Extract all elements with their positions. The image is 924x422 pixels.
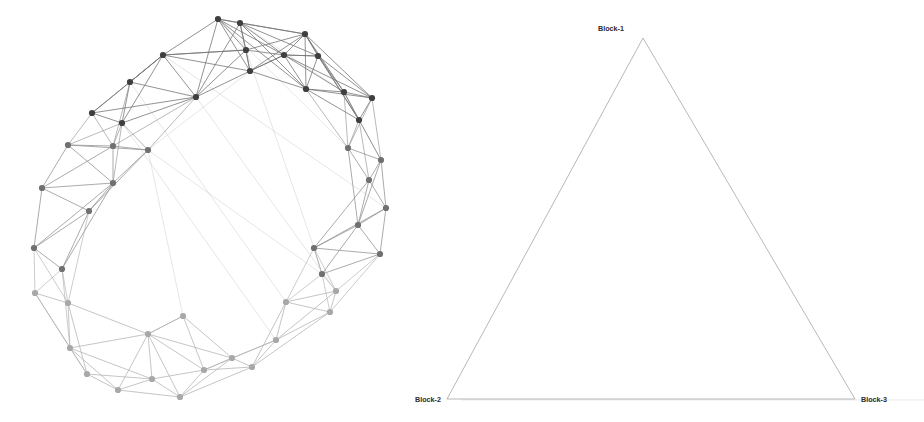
- graph-edge: [89, 150, 148, 211]
- graph-edge: [122, 123, 276, 340]
- graph-node[interactable]: [149, 376, 155, 382]
- graph-node[interactable]: [127, 79, 133, 85]
- graph-node[interactable]: [67, 345, 73, 351]
- graph-edge: [372, 98, 381, 160]
- graph-edge: [130, 82, 286, 302]
- graph-edge: [183, 316, 232, 358]
- graph-node[interactable]: [65, 142, 71, 148]
- graph-edge-layer: [34, 19, 386, 397]
- graph-node[interactable]: [377, 251, 383, 257]
- graph-edge: [148, 334, 180, 397]
- graph-node[interactable]: [327, 309, 333, 315]
- graph-node[interactable]: [160, 52, 166, 58]
- graph-edge: [87, 374, 152, 379]
- graph-node[interactable]: [355, 222, 361, 228]
- graph-edge: [246, 34, 305, 50]
- graph-edge: [348, 148, 358, 225]
- graph-node[interactable]: [237, 20, 243, 26]
- graph-node[interactable]: [315, 53, 321, 59]
- graph-edge: [180, 367, 252, 397]
- graph-edge: [180, 358, 232, 397]
- graph-node[interactable]: [369, 95, 375, 101]
- graph-node[interactable]: [31, 245, 37, 251]
- graph-edge: [305, 34, 306, 89]
- graph-edge: [250, 34, 305, 71]
- graph-node[interactable]: [356, 117, 362, 123]
- graph-edge: [286, 302, 330, 312]
- graph-node[interactable]: [303, 86, 309, 92]
- graph-node[interactable]: [110, 180, 116, 186]
- graph-edge: [183, 316, 204, 370]
- graph-edge: [358, 225, 380, 254]
- network-graph-svg[interactable]: [0, 0, 462, 422]
- graph-node[interactable]: [201, 367, 207, 373]
- graph-node[interactable]: [273, 337, 279, 343]
- graph-edge: [306, 89, 348, 148]
- graph-edge: [284, 55, 372, 98]
- simplex-triangle-outline[interactable]: [447, 38, 855, 399]
- simplex-triangle-svg[interactable]: Block-1Block-2Block-3: [462, 0, 924, 422]
- graph-node[interactable]: [333, 288, 339, 294]
- graph-edge: [196, 50, 246, 97]
- graph-node[interactable]: [281, 52, 287, 58]
- graph-edge: [42, 183, 113, 188]
- graph-node[interactable]: [115, 387, 121, 393]
- graph-node[interactable]: [145, 147, 151, 153]
- graph-edge: [62, 183, 113, 269]
- graph-edge: [314, 248, 380, 254]
- graph-edge: [348, 148, 381, 160]
- graph-node[interactable]: [32, 290, 38, 296]
- graph-node[interactable]: [215, 16, 221, 22]
- graph-edge: [276, 312, 330, 340]
- graph-edge: [152, 370, 204, 379]
- graph-edge: [314, 225, 358, 248]
- graph-edge: [34, 248, 35, 293]
- graph-edge: [70, 334, 148, 348]
- graph-node[interactable]: [243, 47, 249, 53]
- graph-node[interactable]: [249, 364, 255, 370]
- graph-node[interactable]: [177, 394, 183, 400]
- graph-node[interactable]: [145, 331, 151, 337]
- graph-node[interactable]: [86, 208, 92, 214]
- graph-node[interactable]: [345, 145, 351, 151]
- graph-node[interactable]: [319, 271, 325, 277]
- graph-node[interactable]: [229, 355, 235, 361]
- graph-edge: [252, 302, 286, 367]
- graph-node[interactable]: [59, 266, 65, 272]
- graph-edge: [148, 316, 183, 334]
- graph-node[interactable]: [341, 89, 347, 95]
- graph-edge: [70, 348, 152, 379]
- graph-node[interactable]: [193, 94, 199, 100]
- graph-node[interactable]: [119, 120, 125, 126]
- graph-node[interactable]: [39, 185, 45, 191]
- graph-edge: [246, 50, 314, 248]
- graph-node[interactable]: [366, 177, 372, 183]
- graph-node[interactable]: [110, 143, 116, 149]
- graph-node[interactable]: [311, 245, 317, 251]
- graph-node[interactable]: [378, 157, 384, 163]
- graph-edge: [68, 211, 89, 303]
- graph-node[interactable]: [84, 371, 90, 377]
- graph-edge: [180, 370, 204, 397]
- graph-edge: [240, 23, 344, 92]
- graph-edge: [148, 334, 232, 358]
- graph-edge: [68, 303, 148, 334]
- graph-node[interactable]: [180, 313, 186, 319]
- graph-edge: [163, 55, 386, 208]
- graph-node[interactable]: [283, 299, 289, 305]
- graph-edge: [122, 123, 148, 150]
- graph-edge: [348, 120, 359, 148]
- graph-edge: [148, 150, 322, 274]
- graph-edge: [284, 55, 344, 92]
- graph-node[interactable]: [383, 205, 389, 211]
- graph-edge: [42, 145, 68, 188]
- graph-node[interactable]: [302, 31, 308, 37]
- graph-edge: [68, 303, 87, 374]
- graph-edge: [252, 312, 330, 367]
- graph-node[interactable]: [65, 300, 71, 306]
- graph-edge: [163, 50, 246, 55]
- graph-node[interactable]: [89, 110, 95, 116]
- graph-node[interactable]: [247, 68, 253, 74]
- graph-edge: [358, 160, 381, 225]
- graph-edge: [359, 98, 372, 120]
